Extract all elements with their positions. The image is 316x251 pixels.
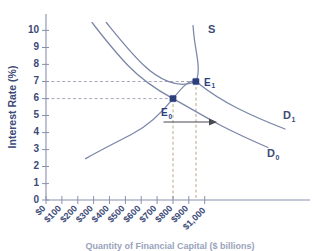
y-tick-label-7: 7 <box>33 75 39 86</box>
equilibrium-label-e0-subscript: 0 <box>169 113 173 120</box>
equilibrium-label-e0-text: E <box>161 107 168 118</box>
y-tick-label-8: 8 <box>33 58 39 69</box>
supply-curve-label: S <box>208 23 215 35</box>
equilibrium-label-e1-text: E <box>204 77 211 88</box>
chart-canvas: 10 9 8 7 6 5 4 3 2 1 0 $0 <box>0 0 316 251</box>
y-tick-label-6: 6 <box>33 92 39 103</box>
y-tick-label-3: 3 <box>33 143 39 154</box>
y-tick-label-10: 10 <box>28 24 40 35</box>
y-tick-label-1: 1 <box>33 177 39 188</box>
demand-curve-d1-label-text: D <box>283 109 291 121</box>
y-axis-title: Interest Rate (%) <box>6 66 18 149</box>
y-tick-label-2: 2 <box>33 160 39 171</box>
equilibrium-point-e0 <box>170 96 176 102</box>
y-tick-label-4: 4 <box>33 126 39 137</box>
y-tick-label-5: 5 <box>33 109 39 120</box>
demand-curve-d1-label-subscript: 1 <box>292 116 296 123</box>
x-axis-title: Quantity of Financial Capital ($ billion… <box>85 241 254 251</box>
y-tick-label-9: 9 <box>33 41 39 52</box>
equilibrium-point-e1 <box>193 78 199 84</box>
economics-supply-demand-chart: 10 9 8 7 6 5 4 3 2 1 0 $0 <box>0 0 316 251</box>
demand-curve-d0-label-subscript: 0 <box>276 154 280 161</box>
equilibrium-label-e1-subscript: 1 <box>212 82 216 89</box>
demand-curve-d0-label-text: D <box>267 147 275 159</box>
y-tick-label-0: 0 <box>33 194 39 205</box>
